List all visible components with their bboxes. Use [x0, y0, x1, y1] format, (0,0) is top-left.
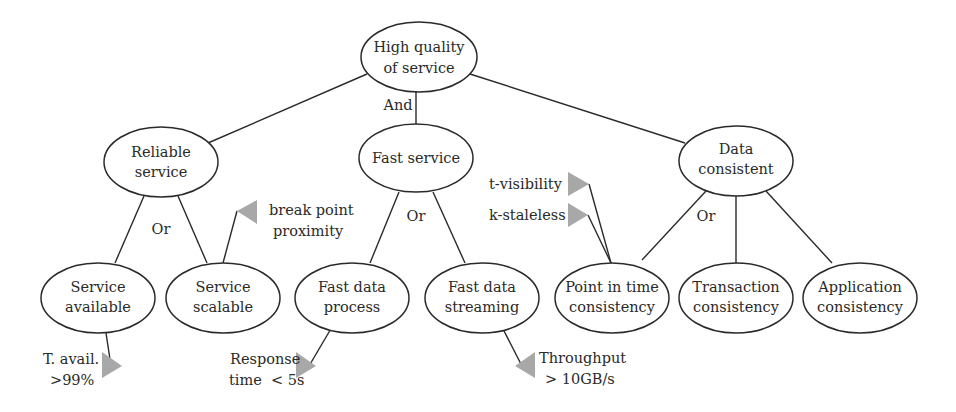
edge-faststream-flag — [502, 327, 522, 366]
node-faststream-line2: streaming — [445, 299, 519, 315]
edge-root-data — [470, 74, 685, 143]
node-data-line2: consistent — [698, 161, 773, 177]
node-fast-data-streaming[interactable]: Fast data streaming — [425, 263, 539, 333]
metric-response-line1: Response — [230, 351, 300, 367]
metric-breakpoint-line2: proximity — [273, 223, 344, 239]
edge-reliable-available — [115, 196, 144, 263]
node-fast-service[interactable]: Fast service — [359, 124, 473, 192]
node-faststream-line1: Fast data — [448, 279, 516, 295]
node-fastproc-line2: process — [324, 299, 381, 315]
edge-data-application — [766, 191, 832, 263]
node-root[interactable]: High quality of service — [361, 22, 477, 92]
metric-throughput-line1: Throughput — [539, 350, 626, 366]
node-scalable-line2: scalable — [193, 299, 253, 315]
metric-response-line2: time < 5s — [229, 372, 304, 388]
metric-kstaleless: k-staleless — [489, 207, 566, 223]
node-data-line1: Data — [719, 141, 754, 157]
operator-and-root: And — [382, 97, 412, 113]
node-data-consistent[interactable]: Data consistent — [679, 126, 793, 196]
edge-root-reliable — [208, 74, 367, 143]
edge-fast-faststream — [433, 192, 465, 263]
node-application-consistency[interactable]: Application consistency — [803, 263, 917, 333]
node-available-line2: available — [65, 299, 131, 315]
node-application-line1: Application — [817, 279, 902, 295]
node-service-scalable[interactable]: Service scalable — [166, 263, 280, 333]
node-service-available[interactable]: Service available — [41, 263, 155, 333]
metric-availability-line1: T. avail. — [43, 351, 99, 367]
node-root-line2: of service — [383, 60, 454, 76]
metric-availability-line2: >99% — [50, 372, 94, 388]
node-reliable-line1: Reliable — [131, 144, 191, 160]
node-application-line2: consistency — [817, 299, 904, 315]
node-transaction-consistency[interactable]: Transaction consistency — [679, 263, 793, 333]
node-reliable-service[interactable]: Reliable service — [104, 127, 218, 197]
node-root-line1: High quality — [373, 39, 465, 55]
metric-breakpoint-line1: break point — [269, 202, 354, 218]
edge-fastproc-flag — [309, 327, 332, 366]
node-fastproc-line1: Fast data — [318, 279, 386, 295]
node-available-line1: Service — [71, 279, 126, 295]
node-transaction-line1: Transaction — [692, 279, 779, 295]
edge-reliable-scalable — [178, 196, 207, 263]
node-pit-line1: Point in time — [565, 279, 659, 295]
node-transaction-line2: consistency — [693, 299, 780, 315]
goal-tree-diagram: High quality of service Reliable service… — [0, 0, 956, 412]
operator-or-reliable: Or — [152, 221, 171, 237]
operator-or-data: Or — [697, 208, 716, 224]
node-point-in-time-consistency[interactable]: Point in time consistency — [555, 263, 669, 333]
edge-data-pit — [642, 191, 706, 260]
node-fast-data-process[interactable]: Fast data process — [295, 263, 409, 333]
flag-icon-breakpoint — [237, 200, 257, 224]
node-reliable-line2: service — [135, 164, 188, 180]
edge-scalable-flag — [223, 211, 237, 263]
edge-fast-fastproc — [370, 192, 399, 263]
metric-tvisibility: t-visibility — [489, 176, 563, 192]
node-scalable-line1: Service — [196, 279, 251, 295]
metric-throughput-line2: > 10GB/s — [545, 371, 615, 387]
node-fast-line1: Fast service — [372, 150, 460, 166]
flag-icon-throughput — [515, 352, 535, 378]
node-pit-line2: consistency — [569, 299, 656, 315]
flag-icon-availability — [102, 352, 122, 378]
flag-icon-kstaleless — [568, 203, 588, 227]
flag-icon-tvisibility — [568, 172, 589, 196]
operator-or-fast: Or — [407, 208, 426, 224]
